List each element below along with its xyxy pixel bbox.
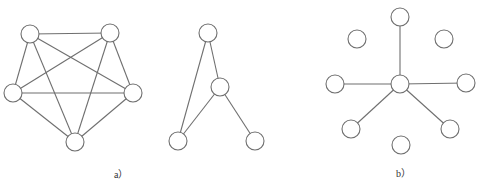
graph-edge [30,34,75,142]
graph-edge [110,33,133,93]
caption-b: b） [396,169,411,179]
graph-node-m2 [211,78,229,96]
graph-edge [400,83,466,84]
graph-diagram [0,0,480,183]
graph-node-left [326,75,344,93]
graph-node-c [391,75,409,93]
graph-edge [75,33,110,142]
graph-node-n3 [124,84,142,102]
graph-edge [351,84,400,129]
graph-node-bottom [392,136,410,154]
graph-edge [220,87,255,141]
graph-edge [178,33,208,141]
graph-edge [30,33,110,34]
graph-node-n5 [4,84,22,102]
graph-node-m3 [169,132,187,150]
graph-node-n2 [101,24,119,42]
graph-node-n1 [21,25,39,43]
graph-node-lr [441,120,459,138]
graph-edge [13,93,75,142]
graph-node-n4 [66,133,84,151]
caption-a: a） [114,170,128,180]
graph-node-m4 [246,132,264,150]
graph-node-ll [342,120,360,138]
graph-edge [75,93,133,142]
graph-node-ur [435,30,453,48]
graph-node-top [391,8,409,26]
graph-edge [178,87,220,141]
graph-node-ul [348,30,366,48]
nodes-layer [4,8,475,154]
graph-node-right [457,74,475,92]
graph-edge [30,34,133,93]
graph-node-m1 [199,24,217,42]
graph-edge [400,84,450,129]
